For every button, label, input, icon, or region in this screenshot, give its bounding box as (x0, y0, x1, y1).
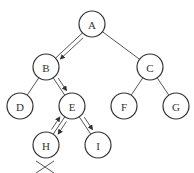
tree-edge-e-i (79, 117, 91, 134)
binary-tree-diagram: ABCDEFGHI (0, 0, 194, 173)
tree-node-c: C (137, 54, 163, 80)
node-label: I (96, 140, 100, 152)
tree-edge-a-b (55, 33, 82, 58)
tree-node-i: I (85, 132, 111, 158)
node-label: H (42, 140, 50, 152)
tree-edge-b-e (53, 78, 65, 95)
tree-node-g: G (163, 93, 189, 119)
traversal-arrow-b-e (58, 78, 66, 90)
null-child-cross-icon (36, 161, 54, 173)
node-label: F (121, 101, 127, 113)
node-label: A (88, 19, 96, 31)
tree-edge-a-c (102, 32, 139, 60)
traversal-arrow-a-b (60, 38, 83, 59)
node-label: C (146, 62, 153, 74)
node-label: E (69, 101, 76, 113)
tree-edge-b-d (27, 78, 39, 95)
tree-edge-c-f (131, 78, 143, 95)
traversal-arrow-h-e (52, 117, 60, 129)
traversal-arrow-e-i (84, 117, 92, 129)
tree-node-e: E (59, 93, 85, 119)
node-label: B (42, 62, 49, 74)
tree-node-f: F (111, 93, 137, 119)
tree-node-h: H (33, 132, 59, 158)
traversal-arrow-e-h (58, 122, 66, 134)
tree-node-b: B (33, 54, 59, 80)
node-label: D (16, 101, 24, 113)
node-label: G (172, 101, 180, 113)
tree-node-d: D (7, 93, 33, 119)
tree-edge-e-h (53, 117, 65, 134)
tree-edge-c-g (157, 78, 169, 95)
tree-node-a: A (79, 11, 105, 37)
